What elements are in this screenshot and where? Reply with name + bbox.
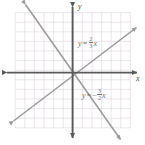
fraction-numerator: 3 <box>97 88 101 95</box>
equation-variable: x <box>93 39 97 48</box>
axis-label-y: y <box>78 3 82 11</box>
graph-figure: y x y=23x y=−32x <box>0 0 145 145</box>
equation-label-negative-slope: y=−32x <box>82 88 106 101</box>
equation-equals: = <box>82 39 89 48</box>
fraction-denominator: 2 <box>97 95 101 101</box>
coordinate-plane <box>0 0 145 145</box>
axis-label-x: x <box>136 75 140 83</box>
equation-variable: x <box>102 91 106 100</box>
equation-label-positive-slope: y=23x <box>78 36 97 49</box>
